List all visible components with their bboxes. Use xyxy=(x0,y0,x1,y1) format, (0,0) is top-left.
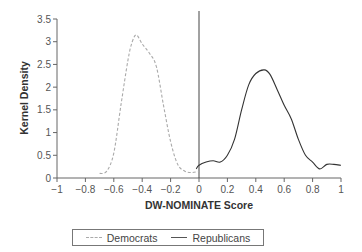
y-tick-label: 1.5 xyxy=(37,104,51,115)
y-tick-label: 2 xyxy=(45,82,51,93)
kernel-density-chart: −1−0.8−0.6−0.4−0.200.20.40.60.8100.511.5… xyxy=(0,0,362,252)
x-axis-title: DW-NOMINATE Score xyxy=(145,199,253,211)
y-tick-label: 3.5 xyxy=(37,14,51,25)
x-tick-label: −0.6 xyxy=(104,184,124,195)
x-tick-label: 0.8 xyxy=(306,184,320,195)
x-tick-label: 0 xyxy=(196,184,202,195)
legend: Democrats Republicans xyxy=(72,229,264,246)
series-line-republicans xyxy=(196,70,341,169)
y-tick-label: 3 xyxy=(45,36,51,47)
x-tick-label: 0.2 xyxy=(220,184,234,195)
dashed-line-swatch xyxy=(86,237,102,238)
solid-line-swatch xyxy=(171,237,187,238)
axes: −1−0.8−0.6−0.4−0.200.20.40.60.8100.511.5… xyxy=(37,11,344,195)
legend-label-democrats: Democrats xyxy=(107,232,158,244)
x-tick-label: 0.4 xyxy=(249,184,263,195)
legend-item-republicans: Republicans xyxy=(171,232,250,244)
y-tick-label: 0.5 xyxy=(37,150,51,161)
x-tick-label: −0.8 xyxy=(76,184,96,195)
x-tick-label: −0.2 xyxy=(161,184,181,195)
series-line-democrats xyxy=(100,35,199,174)
x-tick-label: −0.4 xyxy=(132,184,152,195)
y-tick-label: 1 xyxy=(45,127,51,138)
x-tick-label: 1 xyxy=(338,184,344,195)
legend-item-democrats: Democrats xyxy=(86,232,158,244)
x-tick-label: −1 xyxy=(51,184,63,195)
y-tick-label: 2.5 xyxy=(37,59,51,70)
y-tick-label: 0 xyxy=(45,173,51,184)
series-lines xyxy=(100,35,341,174)
legend-label-republicans: Republicans xyxy=(192,232,250,244)
y-axis-title: Kernel Density xyxy=(18,61,30,135)
x-tick-label: 0.6 xyxy=(277,184,291,195)
